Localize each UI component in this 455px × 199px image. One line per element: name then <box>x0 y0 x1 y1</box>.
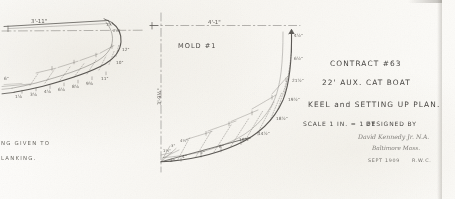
mold-1-curve-offset-1: 4½" <box>294 33 303 38</box>
title-contract: CONTRACT #63 <box>330 60 402 67</box>
mold-1-base-offset-2: 4" <box>182 154 187 159</box>
mold-1-base-offset-5: 10½" <box>239 137 251 142</box>
scan-edge-border <box>442 0 444 199</box>
mold-1-base-offset-4: 8" <box>219 144 224 149</box>
mold-1-heel-offset-2: 3" <box>171 143 175 148</box>
mold-1-curve-offset-5: 18½" <box>276 116 288 121</box>
title-date: SEPT 1909 <box>368 158 400 163</box>
mold-1-curve-offset-2: 6½" <box>294 56 303 61</box>
mold-1-heel-offset-3: 4½" <box>180 138 188 143</box>
title-designed-by-label: DESIGNED BY <box>366 121 417 127</box>
mold-1-heel-offset-1: 1½" <box>163 148 171 153</box>
mold-1-label: MOLD #1 <box>178 42 216 50</box>
mold-1-curve-offset-3: 21½" <box>292 78 304 83</box>
title-scale: SCALE 1 IN. = 1 FT <box>303 121 376 127</box>
mold-1-top-dimension: 4'-1" <box>208 19 221 25</box>
title-signature-location: Baltimore Mass. <box>372 145 420 151</box>
mold-1-vertical-dimension: 3'-9½" <box>156 88 162 105</box>
drawing-sheet: 3'-11" 1½" 2¼" 12" 10" 1⅛ 3⅛ 4⅛ 6⅛ 8⅛ 9⅜… <box>0 0 455 199</box>
mold-1-base-offset-3: 5" <box>200 150 205 155</box>
title-signature: David Kennedy Jr. N.A. <box>358 133 429 140</box>
mold-1-curve-offset-4: 19½" <box>288 97 300 102</box>
mold-1-base-offset-1: 2" <box>170 158 175 163</box>
mold-1-curve-offset-6: 14½" <box>258 131 270 136</box>
title-initials: R.W.C. <box>412 158 431 163</box>
title-vessel: 22' AUX. CAT BOAT <box>322 79 411 86</box>
title-drawing-title: KEEL and SETTING UP PLAN. <box>308 101 440 108</box>
